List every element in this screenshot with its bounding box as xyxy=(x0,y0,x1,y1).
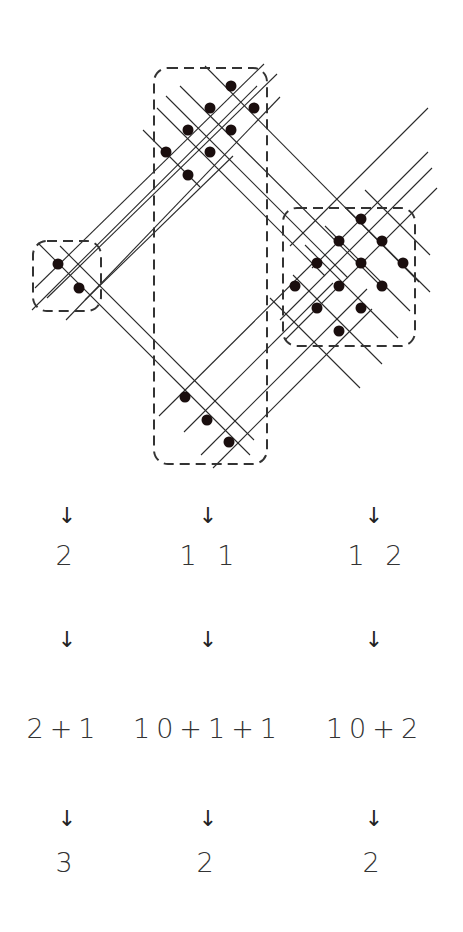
stick-line xyxy=(38,243,250,455)
intersection-dot xyxy=(180,392,191,403)
stick-line xyxy=(85,156,233,300)
result-left: 3 xyxy=(55,847,78,878)
intersection-dot xyxy=(249,103,260,114)
down-arrow-icon: ↓ xyxy=(58,806,76,831)
down-arrow-icon: ↓ xyxy=(199,627,217,652)
intersection-dot xyxy=(334,326,345,337)
intersection-dot xyxy=(356,303,367,314)
intersection-dot xyxy=(183,125,194,136)
intersection-dot xyxy=(205,103,216,114)
count-middle: 1 1 xyxy=(180,540,241,571)
count-left: 2 xyxy=(55,540,78,571)
arrow-row-1: ↓ ↓ ↓ xyxy=(0,503,463,543)
down-arrow-icon: ↓ xyxy=(365,503,383,528)
intersection-dot xyxy=(356,258,367,269)
sum-left: 2+1 xyxy=(27,713,102,744)
count-row: 2 1 1 1 2 xyxy=(0,540,463,580)
stick-line xyxy=(60,246,254,440)
stick-line xyxy=(280,168,432,320)
intersection-dot xyxy=(312,258,323,269)
count-right: 1 2 xyxy=(348,540,409,571)
intersection-dot xyxy=(398,258,409,269)
result-row: 3 2 2 xyxy=(0,847,463,887)
down-arrow-icon: ↓ xyxy=(58,503,76,528)
down-arrow-icon: ↓ xyxy=(365,627,383,652)
intersection-dot xyxy=(377,281,388,292)
intersection-dot xyxy=(205,147,216,158)
intersection-dot xyxy=(356,214,367,225)
arrow-row-2: ↓ ↓ ↓ xyxy=(0,627,463,667)
stick-line xyxy=(35,64,264,288)
stick-line xyxy=(47,74,277,298)
stick-line xyxy=(290,108,428,246)
stick-line xyxy=(312,152,428,268)
intersection-dot xyxy=(74,283,85,294)
intersection-dot xyxy=(226,81,237,92)
sum-middle: 10+1+1 xyxy=(133,713,283,744)
result-right: 2 xyxy=(362,847,385,878)
intersection-dot xyxy=(290,281,301,292)
stick-line xyxy=(32,86,257,310)
sum-right: 10+2 xyxy=(326,713,424,744)
stick-line xyxy=(184,283,333,432)
stick-line xyxy=(365,190,430,255)
down-arrow-icon: ↓ xyxy=(58,627,76,652)
intersection-dot xyxy=(377,236,388,247)
intersection-dot xyxy=(53,259,64,270)
intersection-dot xyxy=(312,303,323,314)
line-multiplication-diagram xyxy=(0,0,463,480)
down-arrow-icon: ↓ xyxy=(199,503,217,528)
group-box-right xyxy=(283,208,415,346)
stick-lines xyxy=(32,64,437,468)
intersection-dot xyxy=(183,170,194,181)
down-arrow-icon: ↓ xyxy=(365,806,383,831)
intersection-dot xyxy=(226,125,237,136)
intersection-dot xyxy=(334,281,345,292)
result-middle: 2 xyxy=(196,847,219,878)
arrow-row-3: ↓ ↓ ↓ xyxy=(0,806,463,846)
intersection-dot xyxy=(161,147,172,158)
intersection-dot xyxy=(334,236,345,247)
intersection-dot xyxy=(202,415,213,426)
sum-row: 2+1 10+1+1 10+2 xyxy=(0,713,463,753)
down-arrow-icon: ↓ xyxy=(199,806,217,831)
intersection-dot xyxy=(224,437,235,448)
stick-line xyxy=(157,108,325,276)
